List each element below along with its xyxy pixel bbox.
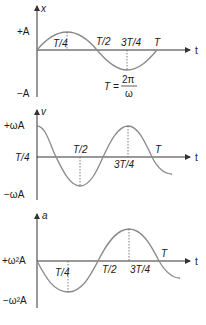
svg-text:2π: 2π [122,74,135,85]
neg-amplitude-label: −A [17,88,30,99]
tick-t4: T/4 [53,38,68,49]
period-formula: T = 2π ω [104,74,137,99]
tick-3t4: 3T/4 [114,159,134,170]
velocity-curve [37,126,172,186]
displacement-graph: x t +A −A T/4 T/2 3T/4 T T = 2π ω [17,3,198,99]
svg-text:ω: ω [125,88,133,99]
t-axis-label: t [195,152,198,163]
tick-t4: T/4 [55,267,70,278]
pos-amplitude-label: +ω²A [2,255,26,266]
svg-text:T =: T = [104,81,119,92]
y-axis-label: a [42,210,48,221]
tick-t: T [155,144,162,155]
tick-t: T [161,248,168,259]
tick-t2: T/2 [73,144,88,155]
neg-amplitude-label: −ω²A [3,295,27,306]
pos-amplitude-label: +A [17,26,30,37]
t-axis-label: t [195,45,198,56]
t-axis-label: t [195,256,198,267]
tick-3t4: 3T/4 [121,37,141,48]
tick-t: T [154,37,161,48]
y-zero-label: T/4 [15,152,30,163]
neg-amplitude-label: −ωA [4,189,25,200]
shm-graphs-diagram: x t +A −A T/4 T/2 3T/4 T T = 2π ω v t +ω… [0,0,206,325]
tick-t2: T/2 [102,264,117,275]
acceleration-graph: a t +ω²A −ω²A T/4 T/2 3T/4 T [2,210,198,308]
tick-t2: T/2 [96,36,111,47]
y-axis-label: v [41,106,47,117]
tick-3t4: 3T/4 [130,264,150,275]
velocity-graph: v t +ωA T/4 −ωA T/2 3T/4 T [4,106,198,200]
y-axis-label: x [40,3,47,14]
pos-amplitude-label: +ωA [4,120,25,131]
